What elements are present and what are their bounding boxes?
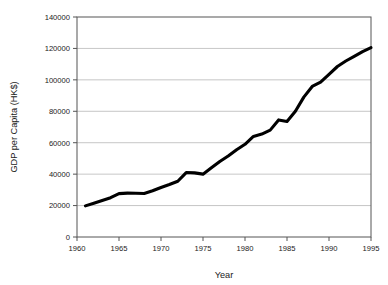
x-tick-label: 1980 bbox=[237, 244, 254, 253]
y-tick-label: 80000 bbox=[49, 107, 70, 116]
y-tick-label: 40000 bbox=[49, 170, 70, 179]
x-tick-label: 1990 bbox=[321, 244, 338, 253]
x-tick-label: 1960 bbox=[69, 244, 86, 253]
y-tick-label: 60000 bbox=[49, 139, 70, 148]
x-tick-label: 1965 bbox=[111, 244, 128, 253]
y-tick-label: 140000 bbox=[45, 13, 70, 22]
y-tick-label: 120000 bbox=[45, 44, 70, 53]
x-tick-label: 1995 bbox=[363, 244, 380, 253]
gdp-per-capita-line-chart: 020000400006000080000100000120000140000 … bbox=[0, 0, 388, 285]
x-axis-title: Year bbox=[215, 270, 234, 280]
y-tick-label: 100000 bbox=[45, 76, 70, 85]
x-tick-label: 1975 bbox=[195, 244, 212, 253]
chart-container: 020000400006000080000100000120000140000 … bbox=[0, 0, 388, 285]
x-tick-label: 1985 bbox=[279, 244, 296, 253]
y-tick-label: 20000 bbox=[49, 201, 70, 210]
y-tick-label: 0 bbox=[66, 233, 70, 242]
x-tick-label: 1970 bbox=[153, 244, 170, 253]
y-axis-title: GDP per Capita (HK$) bbox=[9, 81, 19, 172]
